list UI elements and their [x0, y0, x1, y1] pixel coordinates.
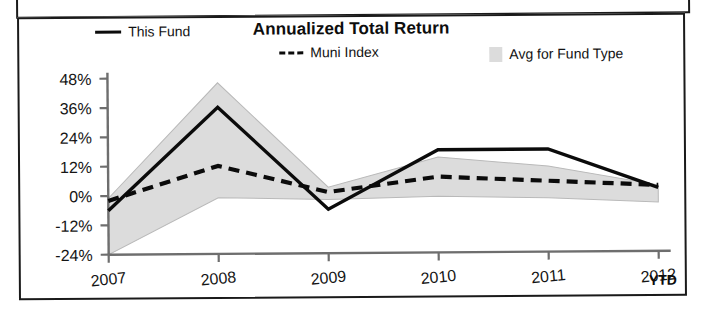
ytick-label-layer: 48%36%24%12%0%-12%-24% — [54, 71, 93, 264]
y-axis-tick-label: 48% — [59, 71, 91, 88]
y-axis-tick-label: -12% — [55, 217, 92, 234]
y-axis-tick-label: -24% — [55, 247, 92, 264]
x-axis-tick-label: 2008 — [200, 268, 237, 288]
y-axis-tick-label: 36% — [60, 100, 92, 117]
x-axis-tick-label: 2010 — [420, 267, 457, 287]
chart-plot-area: 48%36%24%12%0%-12%-24% 20072008200920102… — [17, 13, 687, 301]
chart-figure: Annualized Total Return This Fund Muni I… — [17, 13, 687, 301]
x-axis-tick-label: 2007 — [90, 269, 127, 289]
x-axis-tick-label: 2011 — [530, 266, 566, 286]
xtick-label-layer: 200720082009201020112012 — [90, 265, 677, 289]
y-axis-tick-label: 12% — [60, 159, 92, 176]
y-axis-tick-label: 0% — [69, 188, 92, 205]
band-layer — [107, 80, 658, 255]
x-axis-tick-label: 2009 — [310, 268, 347, 288]
y-axis-tick-label: 24% — [60, 129, 92, 146]
x-axis-ytd-note: YTD — [649, 272, 677, 288]
